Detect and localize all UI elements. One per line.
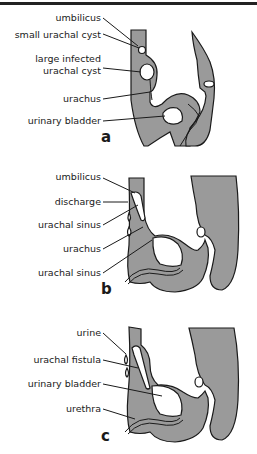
posterior-body-a bbox=[186, 32, 215, 146]
urachal-anomalies-diagram: umbilicus small urachal cyst large infec… bbox=[0, 0, 257, 454]
panel-c: urine urachal fistula urinary bladder ur… bbox=[28, 327, 239, 445]
urinary-bladder-a bbox=[163, 108, 183, 125]
label-large-infected: large infected bbox=[35, 53, 101, 64]
label-urachus-a: urachus bbox=[63, 93, 101, 104]
rectum-lumen-a bbox=[204, 81, 214, 87]
urine-drop-2 bbox=[126, 368, 129, 377]
panel-a: umbilicus small urachal cyst large infec… bbox=[15, 12, 215, 146]
small-urachal-cyst bbox=[139, 47, 146, 54]
large-infected-urachal-cyst bbox=[140, 64, 154, 80]
label-urinary-bladder-c: urinary bladder bbox=[28, 378, 101, 389]
label-urachal-cyst: urachal cyst bbox=[43, 65, 101, 76]
label-urethra: urethra bbox=[66, 403, 101, 414]
label-urachal-fistula: urachal fistula bbox=[33, 354, 101, 365]
label-umbilicus-b: umbilicus bbox=[56, 171, 101, 182]
rectum-lumen-c bbox=[195, 377, 203, 387]
panel-letter-a: a bbox=[101, 128, 111, 146]
urine-drop-1 bbox=[125, 355, 128, 364]
panel-letter-c: c bbox=[101, 427, 110, 445]
rectum-lumen-b bbox=[197, 227, 205, 237]
label-urachal-sinus-2: urachal sinus bbox=[38, 267, 101, 278]
label-small-urachal-cyst: small urachal cyst bbox=[15, 29, 102, 40]
panel-letter-b: b bbox=[101, 280, 112, 298]
discharge-drop-1 bbox=[128, 213, 131, 221]
label-urinary-bladder-a: urinary bladder bbox=[28, 115, 101, 126]
label-urine: urine bbox=[77, 327, 102, 338]
label-urachal-sinus-1: urachal sinus bbox=[38, 219, 101, 230]
leader-urine bbox=[103, 333, 126, 354]
panel-b: umbilicus discharge urachal sinus urachu… bbox=[38, 171, 239, 298]
label-umbilicus-a: umbilicus bbox=[56, 12, 101, 23]
label-urachus-b: urachus bbox=[63, 243, 101, 254]
label-discharge: discharge bbox=[55, 196, 101, 207]
